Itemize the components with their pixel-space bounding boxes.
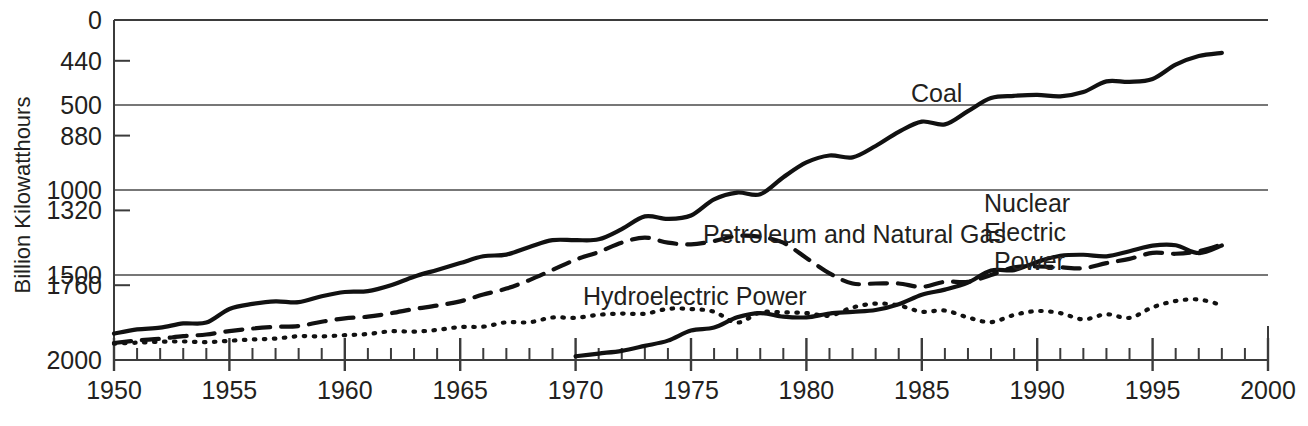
x-tick-label: 1995 bbox=[1125, 376, 1181, 404]
x-tick-label: 1950 bbox=[86, 376, 142, 404]
series-label-nuclear-line2: Electric bbox=[984, 218, 1066, 246]
y-axis-title: Billion Kilowatthours bbox=[10, 97, 35, 294]
energy-sources-line-chart: 200015001000500017601320880440 195019551… bbox=[0, 0, 1308, 426]
y-tick-label: 1320 bbox=[46, 196, 102, 224]
y-tick-label: 440 bbox=[60, 47, 102, 75]
series-label-petroleum-and-natural-gas: Petroleum and Natural Gas bbox=[703, 220, 1006, 248]
x-tick-label: 1985 bbox=[894, 376, 950, 404]
series-label-coal: Coal bbox=[911, 79, 962, 107]
x-tick-label: 1970 bbox=[548, 376, 604, 404]
y-tick-label: 0 bbox=[88, 6, 102, 34]
x-axis-ticks-group bbox=[114, 338, 1268, 371]
x-tick-label: 1955 bbox=[202, 376, 258, 404]
chart-canvas: 200015001000500017601320880440 195019551… bbox=[0, 0, 1308, 426]
x-tick-label: 1965 bbox=[432, 376, 488, 404]
x-tick-label: 1980 bbox=[779, 376, 835, 404]
y-axis-tick-labels: 200015001000500017601320880440 bbox=[46, 6, 102, 374]
y-tick-label: 2000 bbox=[46, 346, 102, 374]
y-axis-ticks-group bbox=[114, 61, 130, 285]
x-tick-label: 1990 bbox=[1009, 376, 1065, 404]
x-tick-label: 1960 bbox=[317, 376, 373, 404]
y-tick-label: 1760 bbox=[46, 271, 102, 299]
y-tick-label: 500 bbox=[60, 91, 102, 119]
series-label-hydroelectric-power: Hydroelectric Power bbox=[583, 282, 807, 310]
series-label-nuclear-line3: Power bbox=[994, 247, 1065, 275]
series-label-nuclear-line1: Nuclear bbox=[984, 189, 1070, 217]
x-tick-label: 1975 bbox=[663, 376, 719, 404]
x-axis-tick-labels: 1950195519601965197019751980198519901995… bbox=[86, 376, 1296, 404]
y-tick-label: 880 bbox=[60, 122, 102, 150]
x-tick-label: 2000 bbox=[1240, 376, 1296, 404]
